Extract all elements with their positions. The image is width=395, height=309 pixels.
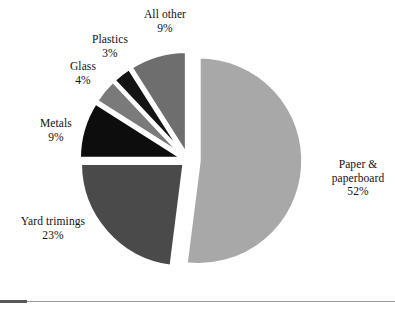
pie-label-glass: Glass 4% <box>50 60 116 87</box>
pie-label-paper-name-line1: Paper & <box>320 158 395 172</box>
pie-label-metals-name: Metals <box>20 117 92 131</box>
pie-label-metals-value: 9% <box>20 131 92 145</box>
pie-label-plastics-name: Plastics <box>72 33 148 47</box>
pie-label-yard-trimings: Yard trimings 23% <box>2 215 104 242</box>
pie-label-glass-value: 4% <box>50 74 116 88</box>
pie-label-plastics-value: 3% <box>72 47 148 61</box>
pie-label-all-other: All other 9% <box>118 8 212 35</box>
pie-label-yard-trimings-name: Yard trimings <box>2 215 104 229</box>
pie-label-metals: Metals 9% <box>20 117 92 144</box>
pie-chart-figure: All other 9% Plastics 3% Glass 4% Metals… <box>0 0 395 309</box>
pie-label-all-other-name: All other <box>118 8 212 22</box>
pie-label-glass-name: Glass <box>50 60 116 74</box>
pie-slice-paper-paperboard <box>186 57 303 265</box>
pie-label-paper-paperboard: Paper & paperboard 52% <box>320 158 395 199</box>
bottom-divider-dark-segment <box>0 300 27 303</box>
pie-label-plastics: Plastics 3% <box>72 33 148 60</box>
pie-label-paper-value: 52% <box>320 185 395 199</box>
pie-label-yard-trimings-value: 23% <box>2 229 104 243</box>
pie-label-paper-name-line2: paperboard <box>320 172 395 186</box>
bottom-divider-rule <box>0 300 395 303</box>
bottom-divider-light-segment <box>27 301 395 302</box>
pie-chart-svg <box>0 0 395 309</box>
